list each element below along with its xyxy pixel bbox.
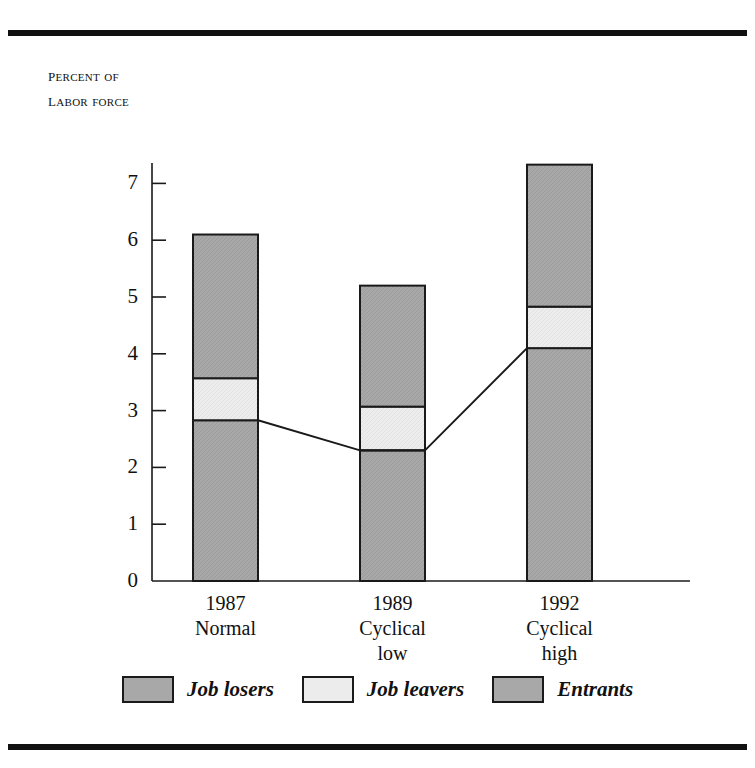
x-axis-label-sub: Normal — [136, 616, 316, 641]
legend-item: Job losers — [122, 676, 274, 703]
legend-swatch-job-leavers — [302, 676, 354, 703]
figure-container: Percent of Labor force 01234567 1987Norm… — [0, 0, 755, 768]
bar-segment — [193, 235, 258, 379]
x-axis-label-sub: high — [470, 641, 650, 666]
bar-segment — [527, 348, 592, 581]
x-axis-label-sub: Cyclical — [303, 616, 483, 641]
legend-item: Entrants — [492, 676, 633, 703]
bottom-rule — [8, 744, 747, 750]
y-tick-label: 2 — [110, 456, 138, 477]
y-tick-label: 0 — [110, 570, 138, 591]
y-tick-label: 5 — [110, 286, 138, 307]
x-axis-label-year: 1989 — [303, 591, 483, 616]
legend-swatch-entrants — [492, 676, 544, 703]
bar-segment — [360, 407, 425, 451]
x-axis-label-sub: Cyclical — [470, 616, 650, 641]
y-tick-label: 7 — [110, 172, 138, 193]
y-tick-label: 4 — [110, 343, 138, 364]
bar-segment — [193, 378, 258, 420]
legend-swatch-job-losers — [122, 676, 174, 703]
legend-label-entrants: Entrants — [557, 677, 633, 702]
chart-legend: Job losers Job leavers Entrants — [0, 676, 755, 703]
y-tick-label: 1 — [110, 513, 138, 534]
legend-label-job-losers: Job losers — [187, 677, 274, 702]
x-axis-label: 1992Cyclicalhigh — [470, 591, 650, 666]
plot-marks — [152, 163, 690, 581]
bar-segment — [360, 450, 425, 581]
legend-item: Job leavers — [302, 676, 464, 703]
bar-segment — [527, 307, 592, 348]
y-tick-label: 3 — [110, 400, 138, 421]
x-axis-label: 1989Cyclicallow — [303, 591, 483, 666]
x-axis-label-sub: low — [303, 641, 483, 666]
bar-segment — [193, 420, 258, 581]
bar-segment — [527, 165, 592, 307]
bar-segment — [360, 286, 425, 407]
legend-label-job-leavers: Job leavers — [367, 677, 464, 702]
y-tick-label: 6 — [110, 229, 138, 250]
x-axis-label: 1987Normal — [136, 591, 316, 641]
x-axis-label-year: 1987 — [136, 591, 316, 616]
x-axis-label-year: 1992 — [470, 591, 650, 616]
